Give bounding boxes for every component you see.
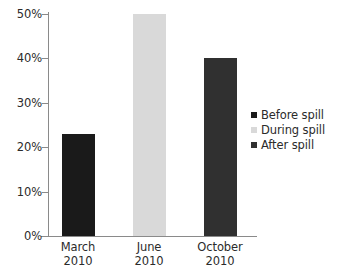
- legend-item-before-spill[interactable]: Before spill: [251, 108, 325, 122]
- x-axis-line: [41, 236, 257, 237]
- y-tick-label-50: 50%: [0, 7, 42, 21]
- chart-legend: Before spill During spill After spill: [251, 108, 325, 153]
- y-tick-30: [42, 103, 49, 104]
- y-tick-label-30: 30%: [0, 96, 42, 110]
- legend-label: During spill: [261, 124, 325, 137]
- y-tick-label-10: 10%: [0, 185, 42, 199]
- bar-chart: 50% 40% 30% 20% 10% 0% March 2010 June 2…: [0, 0, 337, 276]
- y-tick-label-0: 0%: [0, 229, 42, 243]
- x-label-month: March: [41, 240, 115, 254]
- x-label-year: 2010: [112, 254, 186, 268]
- y-tick-label-20: 20%: [0, 140, 42, 154]
- x-label-june-2010: June 2010: [112, 240, 186, 268]
- legend-swatch-icon: [251, 127, 257, 133]
- y-tick-0: [42, 236, 49, 237]
- x-label-month: June: [112, 240, 186, 254]
- legend-label: After spill: [261, 139, 314, 152]
- legend-item-during-spill[interactable]: During spill: [251, 123, 325, 137]
- x-label-march-2010: March 2010: [41, 240, 115, 268]
- x-label-month: October: [183, 240, 257, 254]
- y-tick-50: [42, 14, 49, 15]
- y-tick-40: [42, 58, 49, 59]
- y-tick-20: [42, 147, 49, 148]
- bar-october-2010[interactable]: [204, 58, 237, 236]
- legend-label: Before spill: [261, 109, 324, 122]
- x-label-october-2010: October 2010: [183, 240, 257, 268]
- legend-item-after-spill[interactable]: After spill: [251, 138, 325, 152]
- legend-swatch-icon: [251, 112, 257, 118]
- x-label-year: 2010: [41, 254, 115, 268]
- legend-swatch-icon: [251, 142, 257, 148]
- y-axis-line: [48, 12, 49, 237]
- bar-march-2010[interactable]: [62, 134, 95, 236]
- y-tick-10: [42, 192, 49, 193]
- y-tick-label-40: 40%: [0, 51, 42, 65]
- bar-june-2010[interactable]: [133, 14, 166, 236]
- x-label-year: 2010: [183, 254, 257, 268]
